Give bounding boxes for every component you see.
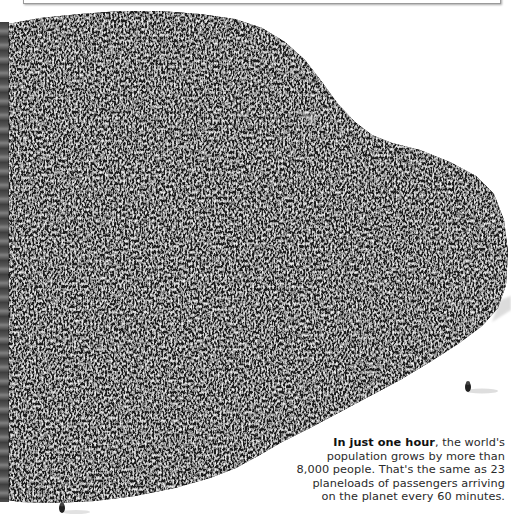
lone-person-right	[462, 380, 502, 396]
caption-line-5: on the planet every 60 minutes.	[275, 490, 505, 504]
caption-line-3: 8,000 people. That's the same as 23	[275, 463, 505, 477]
caption-line-1: In just one hour, the world's	[275, 436, 505, 450]
caption-line-4: planeloads of passengers arriving	[275, 477, 505, 491]
lone-person-bottom	[56, 502, 96, 516]
caption-line-2: population grows by more than	[275, 450, 505, 464]
book-spine-shadow	[0, 22, 9, 502]
caption-line-1-rest: , the world's	[435, 436, 505, 449]
caption-lead-bold: In just one hour	[333, 436, 435, 449]
caption-text: In just one hour, the world's population…	[275, 436, 505, 504]
